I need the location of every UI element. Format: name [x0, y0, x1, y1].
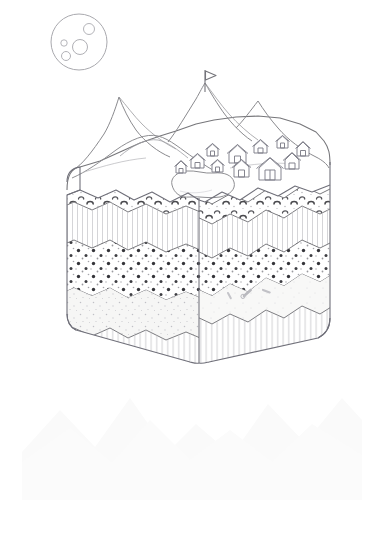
illustration-canvas: Geological Block Diagram with Mountain, … [0, 0, 383, 535]
moon-crater [61, 40, 67, 46]
moon [51, 14, 107, 70]
watermark-mountain-silhouette [22, 398, 362, 500]
moon-crater [62, 52, 71, 61]
summit-flag [205, 70, 216, 92]
flag-banner [206, 71, 217, 80]
geology-block-illustration [0, 0, 383, 535]
moon-crater [73, 40, 88, 55]
moon-crater [84, 24, 95, 35]
